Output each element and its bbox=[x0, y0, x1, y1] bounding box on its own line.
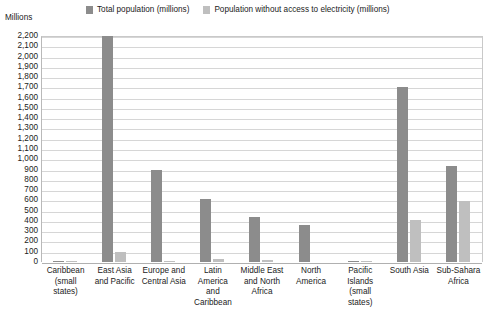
y-axis-tick-label: 800 bbox=[24, 176, 38, 184]
y-axis-tick-label: 1,000 bbox=[18, 155, 39, 163]
bar-groups bbox=[42, 37, 482, 262]
legend-entry-1: Population without access to electricity… bbox=[203, 6, 389, 14]
y-axis-tick-label: 1,500 bbox=[18, 104, 39, 112]
y-axis-tick-label: 1,800 bbox=[18, 73, 39, 81]
bar bbox=[164, 261, 175, 262]
bar-group bbox=[238, 37, 287, 262]
bar bbox=[299, 225, 310, 262]
bar bbox=[397, 87, 408, 262]
x-axis-category-label: PacificIslands(smallstates) bbox=[336, 266, 385, 308]
y-axis-tick-label: 200 bbox=[24, 237, 38, 245]
y-axis-tick-label: 500 bbox=[24, 207, 38, 215]
bar-group bbox=[288, 37, 337, 262]
y-axis-tick-label: 1,400 bbox=[18, 114, 39, 122]
bar-group bbox=[140, 37, 189, 262]
population-electricity-bar-chart: Millions Total population (millions)Popu… bbox=[0, 0, 489, 329]
bar-group bbox=[91, 37, 140, 262]
y-axis-tick-label: 1,100 bbox=[18, 145, 39, 153]
x-axis-category-label: Middle Eastand NorthAfrica bbox=[237, 266, 286, 298]
bar bbox=[66, 261, 77, 262]
y-axis-tick-label: 400 bbox=[24, 217, 38, 225]
bar bbox=[200, 199, 211, 262]
bar bbox=[151, 170, 162, 262]
bar bbox=[348, 261, 359, 262]
x-axis-category-label: Caribbean(smallstates) bbox=[41, 266, 90, 298]
bar-group bbox=[337, 37, 386, 262]
chart-legend: Total population (millions)Population wi… bbox=[86, 6, 390, 14]
x-axis-category-label: East Asiaand Pacific bbox=[90, 266, 139, 287]
bar-group bbox=[42, 37, 91, 262]
y-axis-tick-label: 2,100 bbox=[18, 42, 39, 50]
bar bbox=[262, 260, 273, 262]
y-axis-title: Millions bbox=[5, 13, 32, 22]
y-axis-tick-label: 1,300 bbox=[18, 124, 39, 132]
bar bbox=[213, 259, 224, 262]
y-axis-tick-label: 900 bbox=[24, 165, 38, 173]
legend-entry-0: Total population (millions) bbox=[86, 6, 189, 14]
bar bbox=[53, 261, 64, 262]
plot-area bbox=[41, 36, 483, 262]
x-axis-category-label: Sub-SaharaAfrica bbox=[434, 266, 483, 287]
x-axis-category-label: NorthAmerica bbox=[287, 266, 336, 287]
y-axis-tick-label: 0 bbox=[33, 258, 38, 266]
y-axis-tick-label: 1,200 bbox=[18, 135, 39, 143]
bar-group bbox=[435, 37, 484, 262]
y-axis-tick-label: 1,600 bbox=[18, 94, 39, 102]
bar bbox=[115, 252, 126, 262]
y-axis-tick-label: 2,000 bbox=[18, 52, 39, 60]
bar bbox=[102, 36, 113, 262]
bar bbox=[249, 217, 260, 262]
bar bbox=[446, 166, 457, 262]
x-axis-category-labels: Caribbean(smallstates)East Asiaand Pacif… bbox=[41, 266, 483, 328]
bar bbox=[361, 261, 372, 262]
gridline bbox=[42, 263, 482, 264]
x-axis-category-label: Europe andCentral Asia bbox=[139, 266, 188, 287]
legend-swatch-icon bbox=[203, 6, 210, 14]
y-axis-tick-label: 600 bbox=[24, 196, 38, 204]
y-axis-tick-label: 300 bbox=[24, 227, 38, 235]
x-axis-category-label: LatinAmericaandCaribbean bbox=[188, 266, 237, 308]
bar bbox=[459, 201, 470, 262]
y-axis-tick-label: 700 bbox=[24, 186, 38, 194]
y-axis-tick-label: 1,700 bbox=[18, 83, 39, 91]
y-axis-tick-label: 1,900 bbox=[18, 63, 39, 71]
bar-group bbox=[386, 37, 435, 262]
bar-group bbox=[189, 37, 238, 262]
bar bbox=[410, 220, 421, 262]
x-axis-category-label: South Asia bbox=[385, 266, 434, 277]
y-axis-tick-labels: 2,2002,1002,0001,9001,8001,7001,6001,500… bbox=[0, 36, 38, 262]
legend-label: Total population (millions) bbox=[97, 6, 189, 14]
y-axis-tick-label: 2,200 bbox=[18, 32, 39, 40]
legend-swatch-icon bbox=[86, 6, 93, 14]
legend-label: Population without access to electricity… bbox=[214, 6, 389, 14]
y-axis-tick-label: 100 bbox=[24, 248, 38, 256]
